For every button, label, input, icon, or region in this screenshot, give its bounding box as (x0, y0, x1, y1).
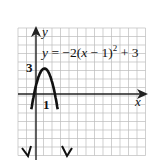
x-axis-label: x (134, 94, 141, 109)
y-tick-label: 3 (26, 60, 33, 75)
equation-label: y = −2(x − 1)2 + 3 (40, 43, 139, 60)
parabola-graph: y x 3 1 y = −2(x − 1)2 + 3 (0, 0, 163, 165)
y-axis-label: y (40, 24, 48, 39)
curve-arrow-right-icon (62, 146, 72, 156)
x-tick-label: 1 (43, 97, 50, 112)
